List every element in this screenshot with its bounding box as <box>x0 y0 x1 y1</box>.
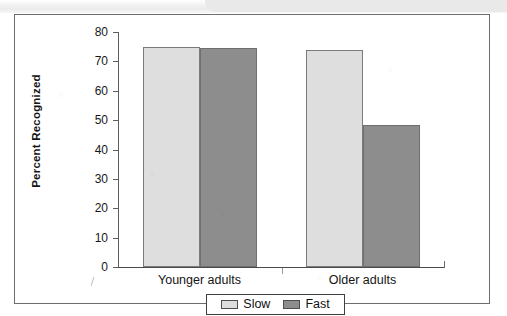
y-tick-mark <box>113 179 118 180</box>
y-axis-title: Percent Recognized <box>30 46 42 216</box>
y-tick-label: 20 <box>82 202 108 214</box>
bar-older-adults-slow <box>306 50 363 267</box>
y-tick-mark <box>113 61 118 62</box>
y-tick-mark <box>113 32 118 33</box>
legend-swatch-icon <box>221 300 238 309</box>
y-tick-mark <box>113 150 118 151</box>
y-tick-label: 0 <box>82 261 108 273</box>
y-tick-mark <box>113 120 118 121</box>
scan-stray-mark <box>91 277 95 286</box>
scanned-page: Percent Recognized 80706050403020100 You… <box>0 0 507 316</box>
bar-younger-adults-slow <box>143 47 200 267</box>
y-axis-line <box>118 32 119 268</box>
y-tick-label: 60 <box>82 85 108 97</box>
y-tick-label: 40 <box>82 144 108 156</box>
x-tick-label: Younger adults <box>120 273 280 287</box>
y-tick-label: 50 <box>82 114 108 126</box>
y-tick-label: 80 <box>82 26 108 38</box>
bar-older-adults-fast <box>363 125 420 267</box>
bar-younger-adults-fast <box>200 48 257 267</box>
legend-swatch-icon <box>283 300 300 309</box>
legend-label: Fast <box>305 298 329 311</box>
figure-frame: Percent Recognized 80706050403020100 You… <box>14 14 490 304</box>
chart-legend: SlowFast <box>206 294 345 315</box>
y-tick-label: 30 <box>82 173 108 185</box>
bar-chart: Percent Recognized 80706050403020100 You… <box>15 15 491 305</box>
y-tick-mark <box>113 91 118 92</box>
legend-label: Slow <box>243 298 270 311</box>
y-tick-mark <box>113 267 118 268</box>
y-tick-mark <box>113 238 118 239</box>
x-axis-end-tick <box>444 261 445 268</box>
y-tick-label: 10 <box>82 232 108 244</box>
x-tick-label: Older adults <box>283 273 443 287</box>
y-tick-label: 70 <box>82 55 108 67</box>
y-tick-mark <box>113 208 118 209</box>
legend-entry-slow: Slow <box>221 298 270 311</box>
scan-edge-band-rounded <box>205 0 507 12</box>
legend-entry-fast: Fast <box>283 298 329 311</box>
